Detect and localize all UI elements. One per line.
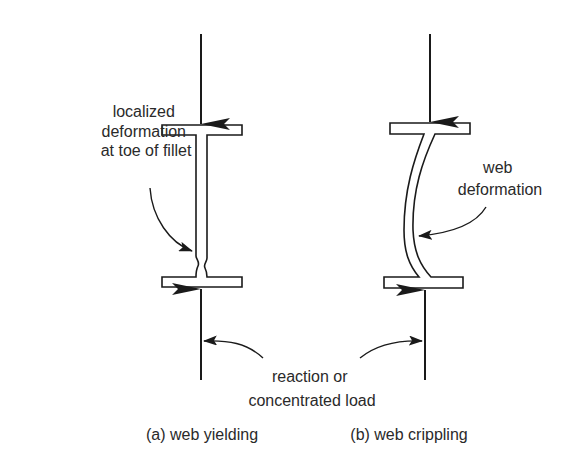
label-reaction-or-concentrated-load: reaction or concentrated load — [248, 368, 375, 409]
leader-arrow-localized-deformation — [150, 188, 192, 251]
i-beam-section-b — [384, 123, 470, 288]
caption-web-yielding: (a) web yielding — [146, 426, 258, 443]
leader-arrow-reaction-right — [360, 341, 422, 358]
leader-arrow-web-deformation — [419, 207, 486, 236]
shared-reaction-label: reaction or concentrated load — [204, 341, 422, 409]
diagram-canvas: localized deformation at toe of fillet (… — [0, 0, 574, 464]
panel-a-web-yielding: localized deformation at toe of fillet (… — [101, 34, 258, 443]
annotation-localized-deformation: localized deformation at toe of fillet — [101, 103, 192, 159]
caption-web-crippling: (b) web crippling — [350, 426, 467, 443]
panel-b-web-crippling: web deformation (b) web crippling — [350, 34, 542, 443]
annotation-web-deformation: web deformation — [458, 159, 543, 198]
leader-arrow-reaction-left — [204, 341, 263, 358]
